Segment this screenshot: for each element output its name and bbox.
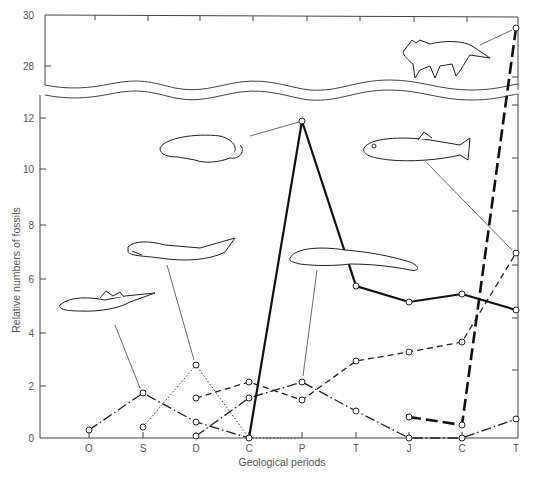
pointer-lines <box>115 30 512 388</box>
rayfin-illustration-icon <box>364 132 470 161</box>
y-tick-6: 6 <box>28 274 34 285</box>
y-tick-8: 8 <box>28 220 34 231</box>
series-lobe-fin <box>143 365 302 438</box>
lobefin-illustration-icon <box>128 238 235 260</box>
mammal-illustration-icon <box>403 40 490 78</box>
x-tick-O: O <box>85 443 93 454</box>
y-tick-labels: 30 28 12 10 8 6 4 2 0 <box>23 10 35 444</box>
amphibian-illustration-icon <box>160 135 242 162</box>
y-tick-28: 28 <box>23 61 35 72</box>
series-ray-fin <box>196 253 516 400</box>
series-reptiles <box>249 121 516 438</box>
reptile-illustration-icon <box>290 248 418 270</box>
x-tick-P: P <box>299 443 306 454</box>
placoderm-illustration-icon <box>60 291 155 311</box>
y-tick-10: 10 <box>23 164 35 175</box>
x-tick-S: S <box>140 443 147 454</box>
y-tick-2: 2 <box>28 381 34 392</box>
x-tick-T2: T <box>513 443 519 454</box>
x-tick-C2: C <box>458 443 465 454</box>
y-tick-0: 0 <box>28 433 34 444</box>
y-tick-4: 4 <box>28 328 34 339</box>
y-axis-title: Relative numbers of fossils <box>10 207 22 332</box>
data-markers <box>86 25 519 441</box>
y-tick-12: 12 <box>23 113 35 124</box>
x-tick-T: T <box>353 443 359 454</box>
x-axis-title: Geological periods <box>239 456 326 468</box>
x-tick-J: J <box>407 443 412 454</box>
x-tick-D: D <box>192 443 199 454</box>
y-tick-30: 30 <box>23 10 35 21</box>
x-tick-C: C <box>245 443 252 454</box>
axis-break <box>45 80 518 100</box>
x-tick-labels: O S D C P T J C T <box>85 443 519 454</box>
fossil-chart: 30 28 12 10 8 6 4 2 0 O S D C P T J C T … <box>0 0 533 479</box>
